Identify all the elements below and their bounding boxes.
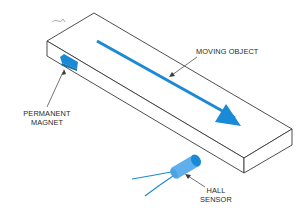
permanent-magnet-label: PERMANENT MAGNET xyxy=(16,109,78,127)
moving-object-box xyxy=(47,13,292,173)
hall-sensor-icon xyxy=(132,153,203,196)
break-mark-icon xyxy=(52,19,65,22)
hall-sensor-leader-arrowhead xyxy=(185,174,191,179)
moving-object-label: MOVING OBJECT xyxy=(196,47,258,56)
magnet-leader-arrowhead xyxy=(62,69,66,75)
hall-sensor-label: HALL SENSOR xyxy=(196,186,236,204)
magnet-leader-line xyxy=(47,72,63,107)
